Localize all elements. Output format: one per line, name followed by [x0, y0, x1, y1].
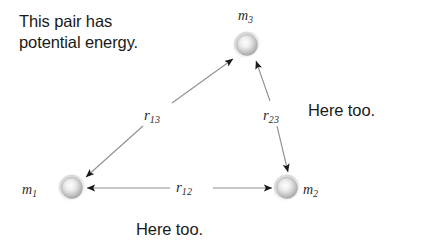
separation-label-r12-sub: 12	[182, 186, 192, 197]
mass-sphere-m1	[59, 175, 86, 202]
separation-label-r23: r23	[263, 106, 279, 125]
r13-arrow-lower	[86, 126, 143, 177]
separation-label-r13-sub: 13	[150, 114, 160, 125]
annotation-top-left: This pair has potential energy.	[19, 11, 138, 53]
mass-label-m3-sub: 3	[248, 15, 253, 25]
mass-label-m1-base: m	[22, 182, 32, 197]
mass-label-m2-base: m	[303, 182, 313, 197]
mass-label-m2-sub: 2	[313, 189, 318, 199]
r13-arrow-upper	[172, 59, 233, 103]
mass-label-m1: m1	[22, 180, 37, 199]
mass-sphere-m3	[234, 32, 261, 59]
separation-label-r23-sub: 23	[269, 114, 279, 125]
mass-label-m3-base: m	[238, 8, 248, 23]
r23-arrow-upper	[256, 61, 270, 101]
annotation-bottom: Here too.	[136, 219, 203, 240]
mass-sphere-m2	[274, 175, 301, 202]
separation-label-r12: r12	[176, 178, 192, 197]
r23-arrow-lower	[277, 126, 288, 172]
mass-label-m3: m3	[238, 6, 253, 25]
mass-label-m1-sub: 1	[32, 189, 37, 199]
mass-label-m2: m2	[303, 180, 318, 199]
annotation-right: Here too.	[308, 100, 375, 121]
physics-diagram: This pair has potential energy. Here too…	[0, 0, 427, 249]
separation-label-r13: r13	[144, 106, 160, 125]
